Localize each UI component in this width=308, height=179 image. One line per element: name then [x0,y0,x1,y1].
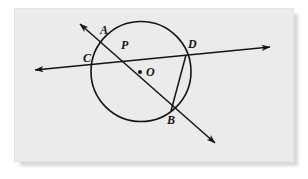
center-point-dot [138,70,142,74]
point-label-C: C [83,52,91,64]
point-label-D: D [188,38,197,50]
geometry-figure [0,0,308,179]
point-label-A: A [100,24,108,36]
point-label-B: B [167,114,175,126]
point-label-P: P [121,39,128,51]
screenshot-root: A C P D O B [0,0,308,179]
chord-DB [171,55,186,111]
point-label-O: O [146,66,155,78]
